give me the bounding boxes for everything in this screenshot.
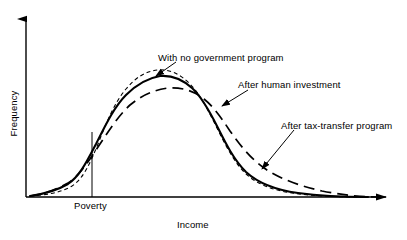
leader-no-government [156,62,176,76]
annotation-label-no-government-program: With no government program [158,52,284,63]
annotation-label-after-tax-transfer-program: After tax-transfer program [281,120,392,131]
y-axis-title: Frequency [8,83,19,145]
leader-human-investment [222,90,248,106]
income-distribution-figure: With no government program After human i… [0,0,407,240]
curve-no-government-program [30,76,368,197]
poverty-axis-label: Poverty [74,200,107,211]
leader-tax-transfer [262,130,294,169]
annotation-label-after-human-investment: After human investment [238,79,341,90]
x-axis-title: Income [177,219,209,230]
